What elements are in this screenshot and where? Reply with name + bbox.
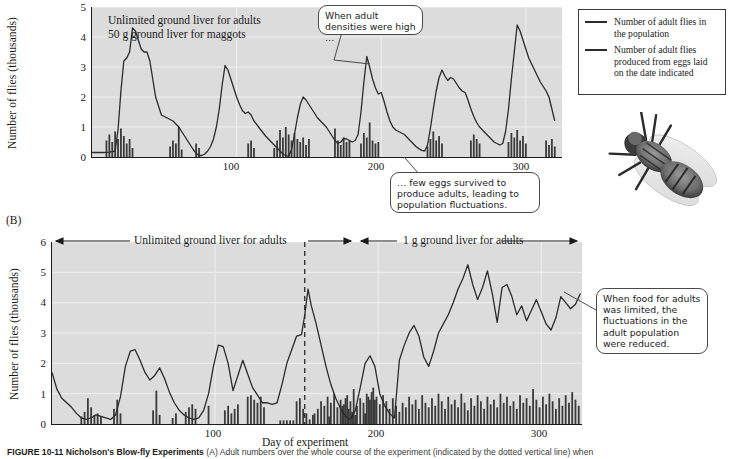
panel-b-xtick-200: 200 <box>365 427 387 439</box>
legend-entry-1: Number of adult flies produced from eggs… <box>585 44 718 79</box>
panel-a-ytick-3: 3 <box>70 61 86 73</box>
panel-b-callout: When food for adults was limited, the fl… <box>596 288 708 354</box>
legend: Number of adult flies in the population … <box>578 9 726 95</box>
panel-b-ytick-1: 1 <box>30 388 46 400</box>
panel-a-callout-bottom: … few eggs survived to produce adults, l… <box>390 172 540 213</box>
panel-a-y-axis <box>91 7 92 158</box>
panel-b-xtick-300: 300 <box>528 427 550 439</box>
panel-a-ytick-4: 4 <box>70 31 86 43</box>
panel-b-ytick-3: 3 <box>30 327 46 339</box>
panel-b-x-axis <box>51 424 582 425</box>
panel-a-ytick-0: 0 <box>70 151 86 163</box>
panel-a-ytick-1: 1 <box>70 121 86 133</box>
panel-b-ytick-2: 2 <box>30 357 46 369</box>
panel-b-ytick-4: 4 <box>30 296 46 308</box>
panel-b-series-canvas <box>52 242 582 424</box>
caption-text: (A) Adult numbers over the whole course … <box>206 447 593 457</box>
panel-a-xtick-300: 300 <box>510 160 532 172</box>
panel-a-xtick-200: 200 <box>365 160 387 172</box>
panel-a-callout-top: When adult densities were high … <box>318 5 423 35</box>
panel-a-annotation-line2: 50 g ground liver for maggots <box>108 28 246 42</box>
caption-label: FIGURE 10-11 <box>7 447 63 457</box>
panel-b-ytick-6: 6 <box>30 236 46 248</box>
panel-a-x-axis <box>91 157 562 158</box>
panel-b-region-left-label: Unlimited ground liver for adults <box>134 234 287 248</box>
legend-swatch-line-eggs <box>585 49 607 51</box>
legend-label-1: Number of adult flies produced from eggs… <box>614 44 718 79</box>
panel-b-ytick-0: 0 <box>30 418 46 430</box>
figure-root: Number of flies (thousands) 5 4 3 2 1 0 … <box>0 0 735 459</box>
panel-a-xtick-100: 100 <box>220 160 242 172</box>
figure-caption: FIGURE 10-11 Nicholson's Blow-fly Experi… <box>7 447 729 459</box>
caption-title: Nicholson's Blow-fly Experiments <box>66 447 204 457</box>
panel-a-callout-top-tail <box>330 30 390 68</box>
panel-a-ytick-2: 2 <box>70 91 86 103</box>
panel-b-region-right-label: 1 g ground liver for adults <box>403 234 523 248</box>
panel-b-letter: (B) <box>6 214 21 226</box>
legend-label-0: Number of adult flies in the population <box>614 16 718 39</box>
panel-b-y-axis <box>51 242 52 425</box>
panel-a-y-axis-label: Number of flies (thousands) <box>6 10 18 155</box>
panel-b-ytick-5: 5 <box>30 266 46 278</box>
panel-a-ytick-5: 5 <box>70 1 86 13</box>
panel-a-annotation-line1: Unlimited ground liver for adults <box>108 14 261 28</box>
panel-b-plot-area <box>52 242 582 424</box>
legend-swatch-line-population <box>585 21 607 23</box>
panel-b-xtick-100: 100 <box>202 427 224 439</box>
legend-entry-0: Number of adult flies in the population <box>585 16 718 39</box>
panel-b-y-axis-label: Number of flies (thousands) <box>8 245 20 423</box>
blowfly-photo <box>590 112 730 212</box>
